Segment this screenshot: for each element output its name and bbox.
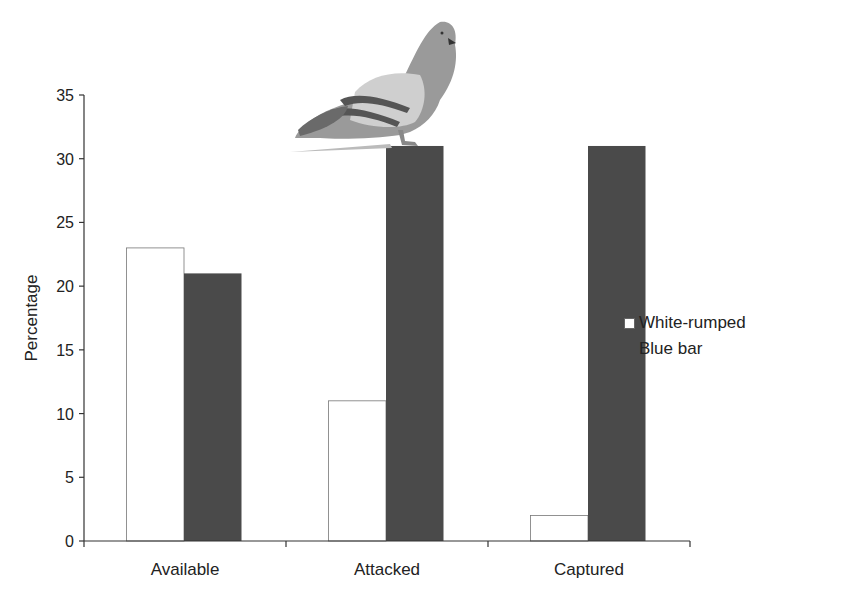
- x-category-label: Attacked: [354, 560, 420, 579]
- bar-available-white-rumped: [127, 248, 185, 541]
- y-axis: 05101520253035: [56, 87, 84, 550]
- y-tick-label: 25: [56, 214, 74, 231]
- y-tick-label: 0: [65, 533, 74, 550]
- y-tick-label: 35: [56, 87, 74, 104]
- bar-available-blue-bar: [184, 273, 242, 541]
- bar-attacked-white-rumped: [329, 401, 387, 541]
- legend: White-rumped Blue bar: [624, 310, 746, 362]
- y-tick-label: 20: [56, 278, 74, 295]
- legend-item-white-rumped: White-rumped: [624, 310, 746, 336]
- bar-chart: 05101520253035 AvailableAttackedCaptured…: [0, 0, 841, 591]
- dark-swatch-icon: [624, 344, 635, 355]
- x-category-label: Captured: [554, 560, 624, 579]
- y-axis-label: Percentage: [22, 275, 41, 362]
- y-tick-label: 15: [56, 342, 74, 359]
- y-tick-label: 10: [56, 406, 74, 423]
- white-swatch-icon: [624, 318, 635, 329]
- x-category-label: Available: [151, 560, 220, 579]
- bars: [127, 146, 646, 541]
- legend-label: Blue bar: [639, 336, 702, 362]
- legend-item-blue-bar: Blue bar: [624, 336, 746, 362]
- pigeon-illustration: [290, 22, 456, 152]
- y-tick-label: 5: [65, 469, 74, 486]
- bar-attacked-blue-bar: [386, 146, 444, 541]
- y-tick-label: 30: [56, 151, 74, 168]
- legend-label: White-rumped: [639, 310, 746, 336]
- x-axis: AvailableAttackedCaptured: [84, 541, 690, 579]
- bar-captured-white-rumped: [531, 516, 589, 541]
